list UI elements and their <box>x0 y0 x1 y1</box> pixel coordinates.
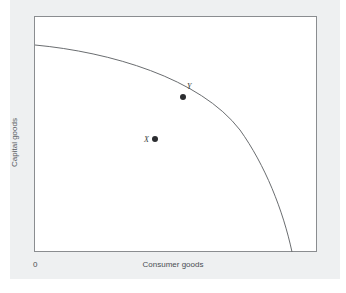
ppf-chart: Y X <box>0 0 346 293</box>
x-axis-label: Consumer goods <box>133 260 213 269</box>
ppf-curve <box>35 45 292 252</box>
origin-label: 0 <box>33 260 37 269</box>
point-x-label: X <box>143 135 150 144</box>
figure-caption-truncated <box>10 286 270 292</box>
point-y-marker <box>180 94 186 100</box>
y-axis-label: Capital goods <box>10 103 19 183</box>
point-x-marker <box>152 136 158 142</box>
